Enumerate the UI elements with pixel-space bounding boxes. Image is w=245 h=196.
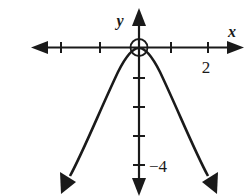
parabola-left-arrowhead	[60, 172, 76, 194]
y-axis-up-arrowhead	[132, 8, 146, 26]
y-axis-group	[132, 8, 146, 196]
x-axis-right-arrowhead	[227, 41, 244, 54]
parabola-right-arrowhead	[202, 172, 218, 194]
y-tick-label-minus4: −4	[149, 157, 168, 176]
y-axis-down-arrowhead	[132, 178, 146, 196]
y-axis-label: y	[114, 12, 124, 30]
parabola-graph-svg: y x 2 −4	[0, 0, 245, 196]
x-axis-left-arrowhead	[31, 41, 48, 54]
graph-figure: y x 2 −4	[0, 0, 245, 196]
x-axis-label: x	[227, 23, 236, 40]
x-tick-label-2: 2	[202, 58, 211, 77]
